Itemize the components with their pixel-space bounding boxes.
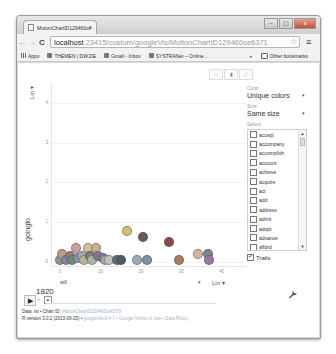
maximize-button[interactable]: ▢ [279,18,293,29]
checkbox-icon[interactable] [250,159,257,166]
other-bookmarks[interactable]: Other bookmarks [261,53,308,59]
y-tick-label: 0 [38,259,48,264]
address-bar[interactable]: localhost:23415/custom/googleVis/MotionC… [50,36,300,48]
bubble-view-icon[interactable]: ⁘ [209,69,223,80]
bookmark-label: Gmail - Inbox [111,53,141,59]
checkbox-icon[interactable] [250,141,257,148]
playback-controls: 1820 ▶ ⌁ ■ [24,288,224,304]
y-scale-dropdown[interactable]: Lin ▾ [28,86,35,99]
y-axis-label[interactable]: goingto [24,218,31,241]
scroll-down-icon[interactable]: ▼ [299,243,306,250]
data-bubble[interactable] [142,255,152,265]
checkbox-icon[interactable] [250,216,257,223]
dw-icon [47,53,52,58]
chevron-down-icon: ▾ [302,110,305,117]
checkbox-icon[interactable] [250,225,257,232]
time-slider[interactable] [46,303,216,304]
size-select[interactable]: Same size▾ [247,110,309,117]
y-tick-label: 3 [38,140,48,145]
checkbox-icon[interactable] [250,150,257,157]
checkbox-icon[interactable] [250,169,257,176]
checkbox-icon[interactable] [250,131,257,138]
color-select[interactable]: Unique colors▾ [247,92,309,99]
item-label: admit [259,216,271,222]
item-label: accept [259,132,274,138]
tab-close-icon[interactable]: × [88,24,92,30]
bookmarks-bar: Apps THEMEN | DW.DE Gmail - Inbox SYSTRA… [17,50,320,62]
title-bar: MotionChartID129460ce: × – ▢ x [17,16,320,34]
color-label: Color [247,85,309,91]
gmail-icon [104,53,109,58]
bookmark-label: Apps [28,53,39,59]
reload-button[interactable]: C [37,38,47,47]
data-bubble[interactable] [122,226,132,236]
url-host: localhost [54,38,84,47]
data-bubble[interactable] [164,237,174,247]
tab-title: MotionChartID129460ce: [37,25,93,31]
browser-window: MotionChartID129460ce: × – ▢ x ← → C loc… [16,15,321,339]
line-view-icon[interactable]: ⁄ [239,69,253,80]
apps-grid-icon [21,53,26,58]
bookmark-dw[interactable]: THEMEN | DW.DE [47,53,96,59]
settings-panel: Color Unique colors▾ Size Same size▾ Sel… [247,83,309,261]
x-tick-label: 40 [219,269,224,274]
x-axis-dropdown-arrow[interactable]: ▾ [198,279,201,285]
trails-checkbox[interactable]: Trails [247,254,309,261]
item-label: act [259,188,266,194]
gridline [52,143,246,144]
item-label: add [259,197,267,203]
checkbox-icon[interactable] [250,206,257,213]
y-tick-label: 1 [38,219,48,224]
footer-links[interactable]: googleVis-0.4.7 • Google Terms of Use • … [84,316,188,321]
browser-menu-icon[interactable]: ≡ [306,37,311,47]
x-tick-label: 30 [179,269,184,274]
checkbox-icon[interactable] [250,234,257,241]
data-bubble[interactable] [193,249,203,259]
footer-version-text: R version 3.0.2 (2013-09-25) • [22,316,84,321]
motion-chart: ⁘ ▮ ⁄ Lin ▾ goingto 01234010203040 will … [18,63,318,313]
gridline [52,182,246,183]
scroll-up-icon[interactable]: ▲ [299,130,306,137]
bookmark-systranet[interactable]: SYSTRANet – Online... [149,53,208,59]
speed-icon[interactable]: ⌁ [37,296,40,302]
x-axis-label[interactable]: will [60,279,67,285]
item-label: accomplish [259,150,284,156]
bar-view-icon[interactable]: ▮ [224,69,238,80]
bookmark-apps[interactable]: Apps [21,53,39,59]
checkbox-icon[interactable] [250,188,257,195]
list-scrollbar[interactable]: ▲ ▼ [298,130,306,250]
checkbox-icon[interactable] [250,178,257,185]
bookmark-gmail[interactable]: Gmail - Inbox [104,53,141,59]
checkbox-icon[interactable] [250,244,257,251]
checkbox-icon[interactable] [250,197,257,204]
bookmark-star-icon[interactable]: ☆ [290,37,297,46]
bookmarks-overflow-button[interactable]: » [249,53,252,59]
scroll-thumb[interactable] [300,138,305,146]
item-label: accompany [259,141,285,147]
minimize-button[interactable]: – [264,18,278,29]
chart-id: MotionChartID129460ce6378 [62,309,121,314]
back-button[interactable]: ← [17,38,27,47]
overflow-chevron-icon: » [249,53,252,59]
x-scale-dropdown[interactable]: Lin ▾ [212,279,225,286]
browser-tab[interactable]: MotionChartID129460ce: × [23,20,97,34]
url-path: :23415/custom/googleVis/MotionChartID129… [84,38,268,47]
data-bubble[interactable] [204,255,214,265]
gridline [52,222,246,223]
entity-select-list[interactable]: acceptaccompanyaccomplishaccountachievea… [247,129,307,251]
wrench-icon[interactable] [288,290,297,301]
x-scale-label: Lin ▾ [212,280,225,286]
data-bubble[interactable] [174,255,184,265]
data-bubble[interactable] [132,255,142,265]
gridline [52,103,246,104]
item-label: afford [259,244,272,250]
plot-area[interactable]: 01234010203040 [51,83,246,267]
folder-icon [261,53,268,59]
close-window-button[interactable]: x [294,18,316,29]
bookmark-label: SYSTRANet – Online... [156,53,208,59]
item-label: address [259,207,277,213]
data-bubble[interactable] [116,255,126,265]
data-bubble[interactable] [138,232,148,242]
forward-button[interactable]: → [27,38,37,47]
play-button[interactable]: ▶ [24,295,36,306]
